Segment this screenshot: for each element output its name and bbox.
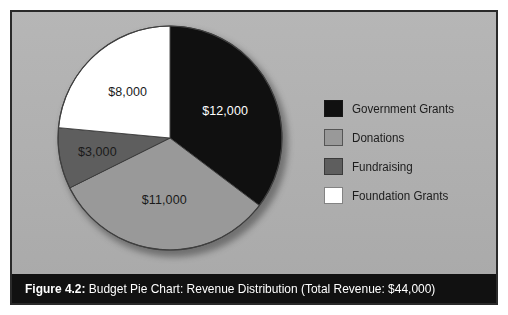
legend-item: Foundation Grants: [324, 187, 462, 204]
legend-item-label: Fundraising: [352, 160, 413, 174]
figure-panel: $12,000$11,000$3,000$8,000 Government Gr…: [10, 10, 498, 305]
figure-caption: Figure 4.2: Budget Pie Chart: Revenue Di…: [25, 282, 435, 296]
legend-item: Fundraising: [324, 158, 462, 175]
legend-swatch: [324, 187, 343, 204]
chart-legend: Government GrantsDonationsFundraisingFou…: [324, 100, 462, 204]
legend-swatch: [324, 158, 343, 175]
legend-item: Government Grants: [324, 100, 462, 117]
figure-caption-bar: Figure 4.2: Budget Pie Chart: Revenue Di…: [12, 274, 496, 303]
legend-item-label: Government Grants: [352, 102, 454, 116]
legend-item-label: Donations: [352, 131, 404, 145]
pie-slice-label: $3,000: [78, 145, 117, 159]
pie-slice-label: $11,000: [142, 193, 187, 207]
pie-slice-label: $8,000: [108, 85, 147, 99]
pie-slice-label: $12,000: [202, 104, 248, 118]
legend-swatch: [324, 100, 343, 117]
legend-item: Donations: [324, 129, 462, 146]
figure-caption-text: Budget Pie Chart: Revenue Distribution (…: [86, 282, 436, 296]
pie-chart: $12,000$11,000$3,000$8,000: [56, 24, 292, 260]
pie-slice: [58, 26, 170, 138]
legend-item-label: Foundation Grants: [352, 189, 448, 203]
figure-screenshot: $12,000$11,000$3,000$8,000 Government Gr…: [0, 0, 508, 315]
pie-chart-svg: $12,000$11,000$3,000$8,000: [56, 24, 292, 260]
legend-swatch: [324, 129, 343, 146]
figure-number: Figure 4.2:: [25, 282, 86, 296]
